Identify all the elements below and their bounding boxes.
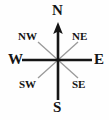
compass-label-southwest: SW: [19, 79, 36, 90]
compass-rose-figure: N E S W NE SE SW NW: [0, 0, 109, 120]
axis-line-northwest: [38, 42, 58, 60]
compass-label-west: W: [8, 52, 23, 67]
axis-line-southeast: [58, 60, 78, 78]
compass-label-northwest: NW: [18, 31, 37, 42]
compass-label-south: S: [53, 100, 61, 115]
compass-label-east: E: [94, 52, 104, 67]
axis-line-northeast: [58, 42, 78, 60]
compass-label-southeast: SE: [72, 79, 85, 90]
compass-label-northeast: NE: [72, 31, 87, 42]
compass-label-north: N: [52, 3, 63, 18]
axis-line-southwest: [38, 60, 58, 78]
